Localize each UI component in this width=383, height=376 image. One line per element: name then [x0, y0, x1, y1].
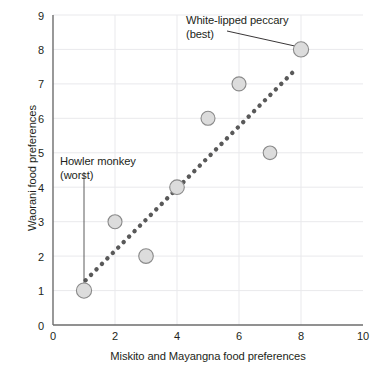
- data-point[interactable]: [76, 283, 91, 298]
- data-point[interactable]: [139, 249, 154, 264]
- data-point[interactable]: [232, 77, 246, 91]
- scatter-chart: 9 8 7 6 5 4 3 2 1 0 0 2 4 6 8 10 Waorani…: [0, 0, 383, 376]
- y-tick-label-8: 8: [22, 45, 44, 56]
- annotation-peccary-line1: White-lipped peccary: [186, 14, 288, 28]
- x-tick-label-0: 0: [41, 331, 65, 342]
- x-tick-label-8: 8: [289, 331, 313, 342]
- y-tick-label-1: 1: [22, 286, 44, 297]
- x-tick-label-2: 2: [103, 331, 127, 342]
- data-point[interactable]: [201, 111, 215, 125]
- data-point[interactable]: [263, 146, 277, 160]
- x-tick-label-10: 10: [351, 331, 375, 342]
- vertical-gridlines: [115, 15, 301, 325]
- annotation-howler-line1: Howler monkey: [60, 155, 136, 169]
- data-point[interactable]: [293, 42, 308, 57]
- horizontal-gridlines: [53, 15, 363, 291]
- data-point[interactable]: [108, 215, 122, 229]
- annotation-peccary-line2: (best): [186, 28, 288, 42]
- annotation-howler-line2: (worst): [60, 169, 136, 183]
- annotation-howler-monkey: Howler monkey (worst): [60, 155, 136, 182]
- x-axis-title: Miskito and Mayangna food preferences: [53, 350, 363, 362]
- x-tick-label-6: 6: [227, 331, 251, 342]
- y-tick-label-9: 9: [22, 11, 44, 22]
- plot-area: [0, 0, 383, 376]
- annotation-white-lipped-peccary: White-lipped peccary (best): [186, 14, 288, 41]
- x-tick-label-4: 4: [165, 331, 189, 342]
- y-axis-title: Waorani food preferences: [26, 68, 38, 268]
- data-point[interactable]: [170, 180, 185, 195]
- y-tick-label-0: 0: [22, 321, 44, 332]
